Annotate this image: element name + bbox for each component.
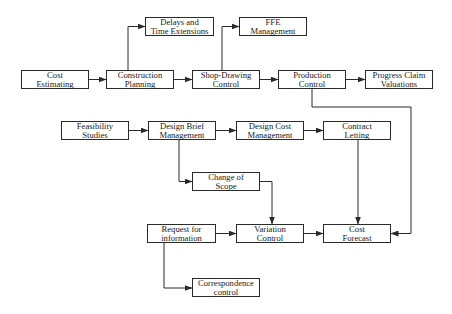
node-design-brief-management: Design Brief Management	[148, 121, 216, 140]
node-delays-time-extensions: Delays and Time Extensions	[145, 17, 214, 36]
flowchart-canvas: Cost EstimatingConstruction PlanningDela…	[0, 0, 452, 314]
edge-arrow-change-of-scope-to-variation-control	[260, 182, 272, 225]
edges-layer	[0, 0, 452, 314]
node-correspondence-control: Correspondence control	[192, 278, 260, 297]
node-cost-forecast: Cost Forecast	[323, 224, 391, 243]
node-production-control: Production Control	[278, 70, 346, 89]
edge-arrow-construction-planning-to-delays-time-extensions	[128, 27, 145, 71]
node-variation-control: Variation Control	[236, 224, 304, 243]
edge-arrow-design-brief-management-to-change-of-scope	[179, 140, 192, 182]
node-design-cost-management: Design Cost Management	[236, 121, 304, 140]
node-contract-letting: Contract Letting	[323, 121, 391, 140]
node-ffe-management: FFE Management	[239, 17, 307, 36]
edge-arrow-production-control-to-cost-forecast	[312, 89, 411, 234]
node-progress-claim-valuations: Progress Claim Valuations	[365, 70, 433, 89]
edge-arrow-shop-drawing-control-to-ffe-management	[222, 27, 239, 71]
node-feasibility-studies: Feasibility Studies	[61, 121, 129, 140]
node-cost-estimating: Cost Estimating	[21, 70, 89, 89]
node-construction-planning: Construction Planning	[106, 70, 174, 89]
node-request-for-information: Request for information	[147, 224, 216, 243]
edge-arrow-request-for-information-to-correspondence-control	[164, 243, 192, 288]
node-shop-drawing-control: Shop-Drawing Control	[192, 70, 260, 89]
node-change-of-scope: Change of Scope	[192, 172, 260, 191]
